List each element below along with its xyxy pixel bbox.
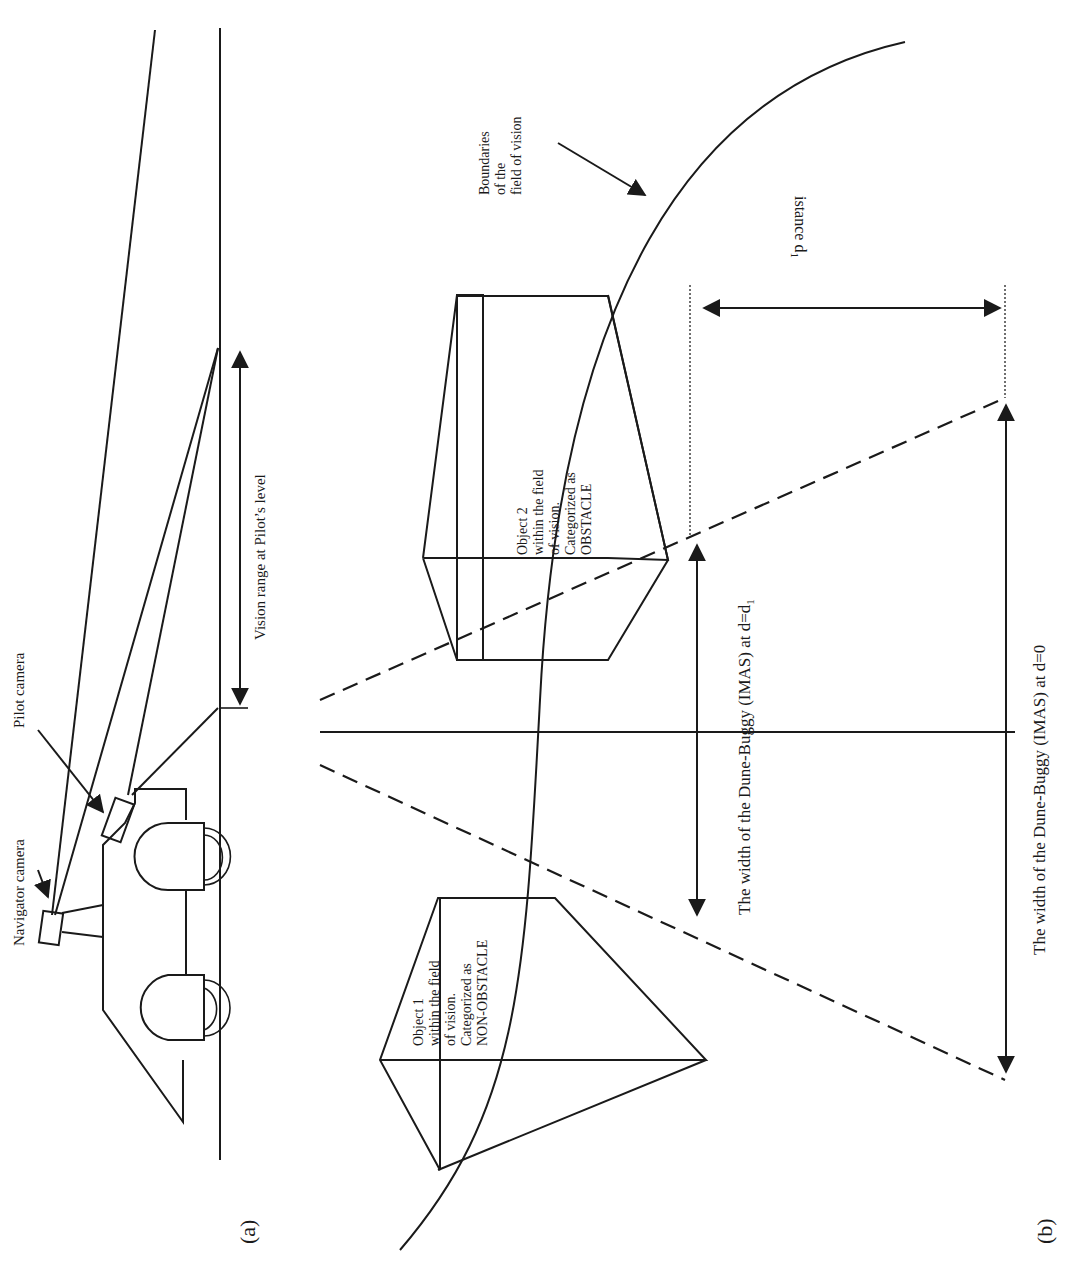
field-of-vision-boundary: [400, 42, 905, 1250]
rear-wheel: [135, 823, 205, 890]
navigator-pointer-arrow: [38, 870, 48, 897]
vision-range-label: Vision range at Pilot’s level: [252, 474, 268, 640]
panel-b-label: (b): [1032, 1218, 1057, 1244]
boundaries-pointer-arrow: [558, 143, 645, 195]
distance-d1-label: istance d1: [789, 196, 809, 258]
width-d1-label: The width of the Dune-Buggy (IMAS) at d=…: [735, 599, 756, 915]
pilot-pointer-arrow: [38, 730, 103, 812]
front-wheel: [141, 975, 204, 1040]
front-wheel-hub: [204, 988, 217, 1030]
panel-b: Object 2 within the field of vision. Cat…: [320, 42, 1057, 1250]
navigator-mast-a: [62, 905, 103, 913]
pilot-camera-label: Pilot camera: [11, 652, 27, 728]
navigator-ray: [55, 348, 218, 915]
pilot-ray-near: [132, 708, 218, 795]
buggy-body: [103, 789, 186, 1122]
panel-a: Vision range at Pilot’s level Navigator …: [11, 28, 268, 1244]
right-width-boundary: [320, 398, 1005, 700]
rear-wheel-rim: [204, 828, 230, 885]
panel-a-label: (a): [235, 1220, 260, 1244]
navigator-camera-icon: [39, 911, 63, 945]
navigator-mast-b: [62, 932, 103, 937]
diagram-canvas: Vision range at Pilot’s level Navigator …: [0, 0, 1068, 1264]
pilot-ray-far: [128, 348, 218, 795]
object-2-label: Object 2 within the field of vision. Cat…: [515, 466, 594, 555]
boundaries-label: Boundaries of the field of vision: [477, 116, 524, 195]
object-1-edge: [438, 1060, 706, 1170]
diagram-svg: Vision range at Pilot’s level Navigator …: [0, 0, 1068, 1264]
object-1-label: Object 1 within the field of vision. Cat…: [411, 940, 490, 1046]
navigator-sightline: [52, 30, 155, 915]
pilot-camera-icon: [102, 798, 134, 842]
navigator-camera-label: Navigator camera: [11, 839, 27, 946]
width-d0-label: The width of the Dune-Buggy (IMAS) at d=…: [1030, 645, 1049, 955]
